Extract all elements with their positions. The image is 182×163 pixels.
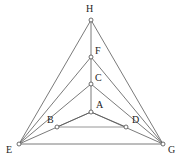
vertex-point-e bbox=[17, 142, 21, 146]
edge-e-h bbox=[19, 20, 91, 144]
vertex-point-a bbox=[89, 110, 93, 114]
vertex-point-g bbox=[161, 142, 165, 146]
edge-e-c bbox=[19, 84, 91, 144]
vertex-point-c bbox=[89, 82, 93, 86]
geometry-canvas bbox=[0, 0, 182, 163]
vertex-label-h: H bbox=[86, 4, 93, 14]
vertex-label-g: G bbox=[168, 145, 175, 155]
vertex-label-d: D bbox=[132, 115, 139, 125]
vertex-label-e: E bbox=[6, 145, 12, 155]
edge-e-f bbox=[19, 57, 91, 144]
vertex-label-c: C bbox=[95, 73, 102, 83]
vertex-point-d bbox=[124, 125, 128, 129]
geometry-figure: HFCABDEG bbox=[0, 0, 182, 163]
edge-a-d bbox=[91, 112, 126, 127]
vertex-label-f: F bbox=[95, 46, 101, 56]
vertex-point-f bbox=[89, 55, 93, 59]
vertex-label-a: A bbox=[96, 100, 103, 110]
vertex-label-b: B bbox=[47, 115, 54, 125]
vertex-point-b bbox=[55, 125, 59, 129]
vertex-point-h bbox=[89, 18, 93, 22]
edge-b-a bbox=[57, 112, 91, 127]
edge-c-g bbox=[91, 84, 163, 144]
